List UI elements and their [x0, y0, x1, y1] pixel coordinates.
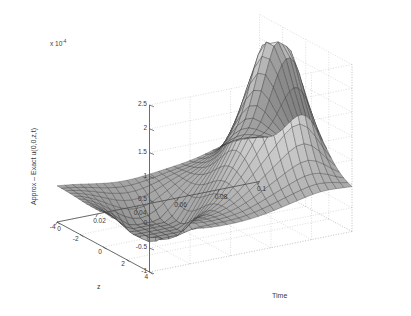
- x-tick-0: 0: [57, 226, 61, 233]
- y-tick-3: -2: [73, 236, 79, 243]
- z-tick-5: 0: [143, 220, 147, 227]
- z-tick-1: 2: [143, 125, 147, 132]
- x-tick-5: 0.1: [257, 186, 266, 193]
- z-tick-2: 1.5: [138, 149, 147, 156]
- y-tick-4: -4: [50, 224, 56, 231]
- z-axis-label: z: [97, 283, 101, 290]
- x-tick-1: 0.02: [93, 218, 106, 225]
- x-tick-4: 0.08: [215, 194, 228, 201]
- y-tick-0: 4: [144, 274, 148, 281]
- z-tick-0: 2.5: [138, 101, 147, 108]
- exponent-power: -4: [62, 39, 66, 44]
- z-axis-exponent: x 10-4: [50, 40, 66, 48]
- exponent-prefix: x 10: [50, 40, 62, 47]
- y-tick-1: 2: [121, 261, 125, 268]
- z-tick-3: 1: [143, 173, 147, 180]
- z-value-axis-label: Approx – Exact u(0,0,z,t): [30, 128, 37, 205]
- z-tick-4: 0.5: [138, 196, 147, 203]
- z-tick-6: -0.5: [136, 244, 147, 251]
- x-tick-3: 0.06: [174, 202, 187, 209]
- x-tick-2: 0.04: [134, 210, 147, 217]
- surface-mesh: [57, 42, 352, 241]
- y-tick-2: 0: [98, 249, 102, 256]
- figure-canvas: x 10-4 Approx – Exact u(0,0,z,t) Time z …: [0, 0, 411, 316]
- time-axis-label: Time: [272, 292, 287, 299]
